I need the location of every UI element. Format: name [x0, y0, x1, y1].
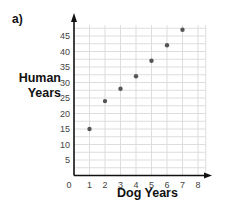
- data-point: [87, 127, 91, 131]
- x-tick-label: 6: [164, 180, 169, 190]
- data-point: [103, 99, 107, 103]
- y-tick-label: 20: [60, 109, 70, 119]
- x-tick-label: 1: [87, 180, 92, 190]
- scatter-plot: 01234567851015202530354045: [0, 0, 225, 214]
- y-tick-label: 5: [65, 155, 70, 165]
- x-tick-label: 3: [118, 180, 123, 190]
- x-tick-label: 2: [102, 180, 107, 190]
- data-point: [165, 43, 169, 47]
- data-point: [149, 59, 153, 63]
- x-tick-label: 4: [133, 180, 138, 190]
- y-tick-label: 25: [60, 93, 70, 103]
- x-tick-label: 5: [149, 180, 154, 190]
- y-tick-label: 40: [60, 47, 70, 57]
- data-point: [180, 28, 184, 32]
- x-tick-label: 0: [66, 180, 71, 190]
- y-tick-label: 35: [60, 62, 70, 72]
- y-axis-arrow-icon: [71, 13, 77, 22]
- data-point: [134, 74, 138, 78]
- y-tick-label: 10: [60, 140, 70, 150]
- x-axis-arrow-icon: [204, 173, 212, 179]
- y-tick-label: 30: [60, 78, 70, 88]
- x-tick-label: 8: [195, 180, 200, 190]
- y-tick-label: 45: [60, 31, 70, 41]
- y-tick-label: 15: [60, 124, 70, 134]
- data-point: [118, 87, 122, 91]
- x-tick-label: 7: [180, 180, 185, 190]
